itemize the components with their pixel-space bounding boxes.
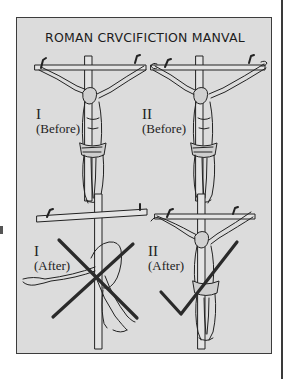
caption-numeral: I <box>34 243 70 259</box>
caption-1-after: I (After) <box>34 243 70 273</box>
caption-2-before: II (Before) <box>142 106 186 136</box>
illustration-panel: ROMAN CRVCIFICTION MANVAL <box>16 17 272 354</box>
caption-numeral: II <box>142 106 186 122</box>
caption-numeral: I <box>36 106 80 122</box>
caption-text: (Before) <box>142 121 186 136</box>
arm-left-upper <box>39 70 85 94</box>
page-margin-rule <box>281 0 283 379</box>
caption-text: (After) <box>34 258 70 273</box>
nail-right <box>135 55 140 63</box>
caption-1-before: I (Before) <box>36 106 80 136</box>
caption-numeral: II <box>148 243 184 259</box>
illustration-drawing <box>17 18 272 354</box>
caption-text: (Before) <box>36 121 80 136</box>
cross-beam <box>35 65 146 70</box>
caption-2-after: II (After) <box>148 243 184 273</box>
caption-text: (After) <box>148 258 184 273</box>
margin-mark <box>0 226 3 234</box>
